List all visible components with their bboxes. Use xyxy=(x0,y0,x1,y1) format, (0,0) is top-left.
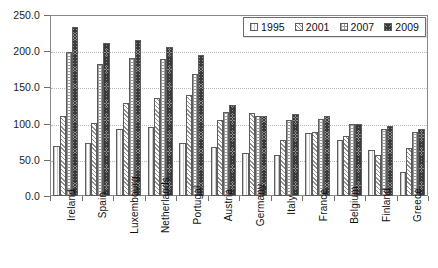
bar xyxy=(135,40,141,196)
bar-group xyxy=(50,15,82,196)
x-tick-mark xyxy=(145,196,146,201)
x-label-cell: Ireland xyxy=(50,203,82,265)
legend-item-1995: 1995 xyxy=(250,21,285,33)
x-axis-label-italy: Italy xyxy=(286,195,297,214)
x-axis-label-finland: Finland xyxy=(381,188,392,222)
legend-item-2001: 2001 xyxy=(295,21,330,33)
x-axis-label-belgium: Belgium xyxy=(349,186,360,224)
x-tick-mark xyxy=(428,196,429,201)
bar-group xyxy=(271,15,303,196)
bar xyxy=(292,114,298,196)
bar xyxy=(229,105,235,196)
x-label-cell: Luxembourg xyxy=(113,203,145,265)
bars-layer xyxy=(50,15,428,196)
x-tick-mark xyxy=(50,196,51,201)
x-axis-label-spain: Spain xyxy=(97,192,108,219)
y-tick-label: 0.0 xyxy=(25,190,40,202)
x-label-cell: Portugal xyxy=(176,203,208,265)
legend-label: 1995 xyxy=(261,21,285,33)
bar-chart: 0.050.0100.0150.0200.0250.0 IrelandSpain… xyxy=(0,0,438,268)
x-tick-mark xyxy=(176,196,177,201)
x-label-cell: Belgium xyxy=(334,203,366,265)
x-axis-label-austria: Austria xyxy=(223,189,234,222)
x-axis-label-portugal: Portugal xyxy=(192,186,203,225)
x-tick-mark xyxy=(365,196,366,201)
x-label-cell: Germany xyxy=(239,203,271,265)
chart-legend: 1995200120072009 xyxy=(243,17,426,37)
y-tick-label: 100.0 xyxy=(13,118,40,130)
x-tick-mark xyxy=(334,196,335,201)
bar-group xyxy=(113,15,145,196)
bar-group xyxy=(145,15,177,196)
x-tick-mark xyxy=(208,196,209,201)
legend-label: 2001 xyxy=(306,21,330,33)
x-tick-mark xyxy=(271,196,272,201)
bar-group xyxy=(208,15,240,196)
legend-swatch-icon xyxy=(250,23,258,31)
legend-swatch-icon xyxy=(384,23,392,31)
bar-group xyxy=(397,15,429,196)
bar-group xyxy=(82,15,114,196)
x-axis-label-greece: Greece xyxy=(412,188,423,222)
x-label-cell: Greece xyxy=(397,203,429,265)
bar-group xyxy=(365,15,397,196)
x-axis-label-ireland: Ireland xyxy=(66,189,77,221)
x-label-cell: Spain xyxy=(82,203,114,265)
legend-item-2009: 2009 xyxy=(384,21,419,33)
x-label-cell: Austria xyxy=(208,203,240,265)
y-tick-label: 50.0 xyxy=(19,154,40,166)
bar xyxy=(103,43,109,196)
x-tick-mark xyxy=(82,196,83,201)
y-axis: 0.050.0100.0150.0200.0250.0 xyxy=(0,0,46,196)
legend-label: 2007 xyxy=(351,21,375,33)
x-label-cell: France xyxy=(302,203,334,265)
x-label-cell: Italy xyxy=(271,203,303,265)
y-tick-label: 150.0 xyxy=(13,81,40,93)
legend-swatch-icon xyxy=(340,23,348,31)
bar-group xyxy=(334,15,366,196)
x-tick-mark xyxy=(113,196,114,201)
x-axis-label-luxembourg: Luxembourg xyxy=(129,176,140,234)
bar xyxy=(198,55,204,196)
y-tick-label: 250.0 xyxy=(13,9,40,21)
bar-group xyxy=(239,15,271,196)
x-label-cell: Finland xyxy=(365,203,397,265)
x-label-cell: Netherlands xyxy=(145,203,177,265)
x-tick-mark xyxy=(302,196,303,201)
legend-label: 2009 xyxy=(395,21,419,33)
bar xyxy=(166,47,172,196)
y-tick-label: 200.0 xyxy=(13,45,40,57)
bar xyxy=(387,126,393,196)
bar xyxy=(324,116,330,196)
legend-swatch-icon xyxy=(295,23,303,31)
bar xyxy=(72,27,78,196)
bar xyxy=(355,124,361,196)
x-axis-label-germany: Germany xyxy=(255,184,266,227)
legend-item-2007: 2007 xyxy=(340,21,375,33)
x-axis-label-netherlands: Netherlands xyxy=(160,177,171,233)
x-tick-mark xyxy=(239,196,240,201)
bar-group xyxy=(302,15,334,196)
x-axis-labels: IrelandSpainLuxembourgNetherlandsPortuga… xyxy=(50,203,428,265)
bar-group xyxy=(176,15,208,196)
x-axis-label-france: France xyxy=(318,189,329,221)
x-tick-mark xyxy=(397,196,398,201)
bar xyxy=(418,129,424,196)
